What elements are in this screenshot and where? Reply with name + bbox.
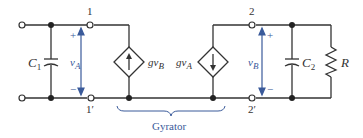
junction-dot — [289, 22, 295, 28]
terminal-2 — [249, 22, 255, 28]
va-arrow-top-icon — [78, 28, 84, 35]
terminal-1-prime-label: 1′ — [86, 104, 94, 115]
vb-arrow-top-icon — [259, 28, 265, 35]
terminal-2-label: 2 — [249, 6, 255, 17]
src-right-label: gvA — [176, 57, 192, 68]
terminal-left-bottom — [19, 95, 25, 101]
terminal-left-top — [19, 22, 25, 28]
va-minus: − — [70, 84, 76, 95]
junction-dot — [289, 95, 295, 101]
terminal-1-label: 1 — [87, 6, 93, 17]
terminal-1-prime — [88, 95, 94, 101]
terminal-1 — [87, 22, 93, 28]
junction-dot — [48, 22, 54, 28]
gyrator-label: Gyrator — [152, 121, 186, 132]
resistor-r — [326, 47, 336, 77]
gyrator-brace — [117, 106, 225, 116]
r-label: R — [341, 56, 349, 69]
gyrator-circuit-diagram: 1 1′ 2 2′ C1 C2 R gvB gvA + − vA + − vB … — [0, 0, 363, 138]
terminal-2-prime-label: 2′ — [248, 104, 256, 115]
va-arrow-bottom-icon — [78, 88, 84, 95]
c1-label: C1 — [28, 56, 41, 69]
junction-dot — [48, 95, 54, 101]
vb-minus: − — [267, 84, 273, 95]
vb-plus: + — [267, 30, 273, 41]
vb-arrow-bottom-icon — [259, 88, 265, 95]
c2-label: C2 — [302, 56, 315, 69]
junction-dot — [210, 95, 216, 101]
vb-label: vB — [248, 57, 258, 68]
junction-dot — [126, 95, 132, 101]
arrow-up-icon — [126, 53, 132, 59]
va-plus: + — [70, 30, 76, 41]
va-label: vA — [70, 57, 80, 68]
terminal-2-prime — [249, 95, 255, 101]
src-left-label: gvB — [148, 57, 164, 68]
arrow-down-icon — [210, 65, 216, 71]
